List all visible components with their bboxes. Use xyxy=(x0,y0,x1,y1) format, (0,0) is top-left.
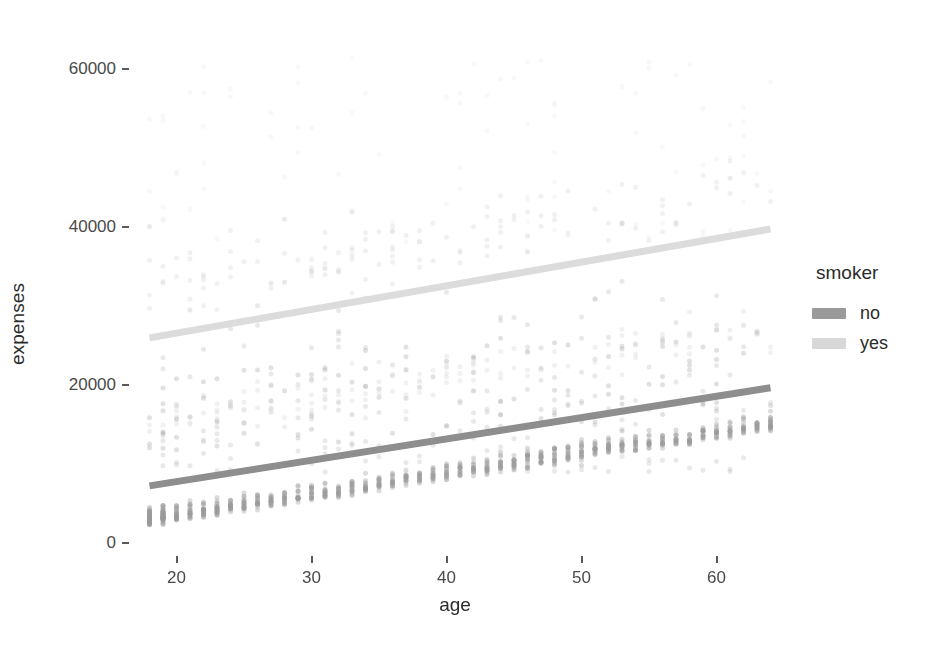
y-tick-label: 40000 xyxy=(0,217,116,237)
legend-key-yes xyxy=(812,338,846,349)
x-axis: 2030405060 xyxy=(136,0,784,648)
legend-label: yes xyxy=(860,333,888,354)
legend-key-no xyxy=(812,308,846,319)
x-tick-label: 40 xyxy=(417,568,477,588)
x-tick-label: 20 xyxy=(147,568,207,588)
x-tick-mark xyxy=(176,556,178,563)
x-tick-mark xyxy=(311,556,313,563)
legend-title: smoker xyxy=(816,262,932,284)
chart-root: expenses 0200004000060000 2030405060 age… xyxy=(0,0,939,648)
y-tick-mark xyxy=(122,384,129,386)
y-tick-mark xyxy=(122,542,129,544)
legend: smoker noyes xyxy=(812,262,932,358)
y-tick-mark xyxy=(122,226,129,228)
x-tick-label: 50 xyxy=(552,568,612,588)
legend-label: no xyxy=(860,303,880,324)
y-axis: 0200004000060000 xyxy=(0,0,136,648)
legend-items: noyes xyxy=(812,298,932,358)
x-tick-mark xyxy=(716,556,718,563)
x-tick-label: 60 xyxy=(687,568,747,588)
x-tick-label: 30 xyxy=(282,568,342,588)
x-tick-mark xyxy=(581,556,583,563)
y-tick-label: 20000 xyxy=(0,375,116,395)
y-tick-mark xyxy=(122,68,129,70)
legend-item-no[interactable]: no xyxy=(812,298,932,328)
legend-item-yes[interactable]: yes xyxy=(812,328,932,358)
y-tick-label: 0 xyxy=(0,533,116,553)
x-tick-mark xyxy=(446,556,448,563)
y-tick-label: 60000 xyxy=(0,59,116,79)
x-axis-title: age xyxy=(130,592,780,618)
